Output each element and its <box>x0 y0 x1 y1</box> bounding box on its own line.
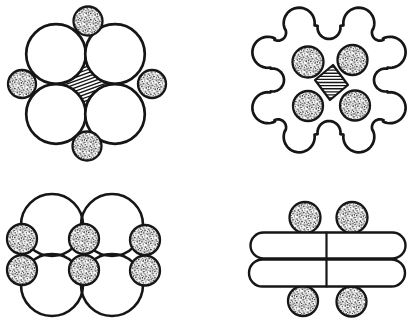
filler-stippled <box>8 70 36 98</box>
conductor-stippled <box>338 45 368 75</box>
conductor-stippled <box>69 224 99 254</box>
filler-stippled <box>138 70 166 98</box>
filler-stippled <box>74 7 103 36</box>
conductor-stippled <box>293 47 324 78</box>
cable-cross-sections-diagram <box>0 0 416 324</box>
conductor-stippled <box>340 91 370 121</box>
conductor-stippled <box>7 224 37 254</box>
conductor-stippled <box>337 202 368 233</box>
diagram-page <box>0 0 416 324</box>
conductor-stippled <box>288 286 318 316</box>
conductor-stippled <box>290 202 321 233</box>
conductor-stippled <box>7 255 37 285</box>
ribbon-top <box>251 233 406 259</box>
conductor-stippled <box>130 256 160 286</box>
filler-stippled <box>73 132 102 161</box>
conductor-stippled <box>337 287 367 317</box>
conductor-large <box>26 24 86 84</box>
conductor-stippled <box>69 255 99 285</box>
conductor-stippled <box>293 91 323 121</box>
conductor-stippled <box>130 225 160 255</box>
